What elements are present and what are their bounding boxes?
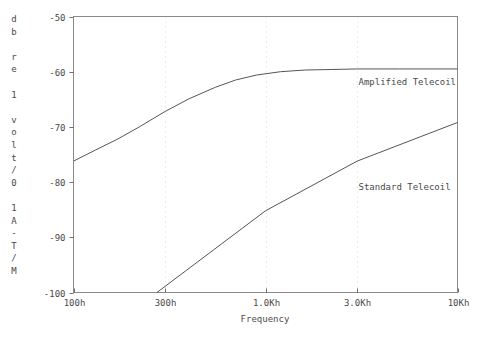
y-tick-label: -100 [44,289,66,299]
y-tick-label: -50 [49,13,65,23]
telecoil-response-chart: -50-60-70-80-90-100 100h300h1.0Kh3.0Kh10… [0,0,478,339]
y-axis-title-char: 0 [11,178,16,188]
y-axis-title-char: e [11,64,16,74]
x-tick-label: 100h [64,298,86,308]
y-axis-title-char: o [11,127,16,137]
x-tick-label: 3.0Kh [344,298,371,308]
y-axis-title-char: t [11,153,16,163]
y-axis-title-char: r [11,52,17,62]
y-axis-title-char: T [11,241,17,251]
y-axis-title-char: l [11,140,16,150]
y-axis-title: dbre1volt/01A-T/M [11,14,17,276]
chart-background [0,0,478,339]
chart-page: -50-60-70-80-90-100 100h300h1.0Kh3.0Kh10… [0,0,478,339]
y-tick-label: -80 [49,178,65,188]
y-axis-title-char: d [11,14,16,24]
series-label-2: Standard Telecoil [359,182,451,192]
y-tick-label: -60 [49,68,65,78]
y-tick-label: -90 [49,233,65,243]
x-tick-label: 10Kh [448,298,470,308]
x-tick-label: 300h [155,298,177,308]
y-axis-title-char: A [11,216,17,226]
x-tick-label: 1.0Kh [253,298,280,308]
y-axis-title-char: v [11,115,16,125]
y-axis-title-char: 1 [11,203,16,213]
y-axis-title-char: / [11,165,16,175]
x-axis-title-label: Frequency [241,314,290,324]
y-tick-label: -70 [49,123,65,133]
y-axis-title-char: M [11,266,17,276]
y-axis-title-char: 1 [11,90,16,100]
series-label-1: Amplified Telecoil [359,77,457,87]
y-axis-title-char: / [11,253,16,263]
y-axis-title-char: b [11,27,16,37]
y-axis-title-char: - [11,228,16,238]
